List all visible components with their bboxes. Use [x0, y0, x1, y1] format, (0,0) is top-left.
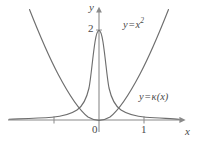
- parabola-label-exponent: 2: [140, 16, 144, 25]
- curve-kappa: [9, 30, 179, 119]
- y-axis-label: y: [89, 2, 94, 13]
- origin-label: 0: [92, 124, 98, 135]
- plot-canvas: [0, 0, 197, 145]
- x-tick-label-1: 1: [141, 124, 147, 135]
- axis-lines: [8, 12, 180, 132]
- curvature-figure: y x 2 0 1 y=x2 y=κ(x): [0, 0, 197, 145]
- kappa-label-function: κ(x): [152, 91, 169, 102]
- parabola-curve-label: y=x2: [123, 17, 144, 30]
- parabola-label-equals: =: [128, 19, 136, 30]
- kappa-label-equals: =: [144, 91, 152, 102]
- y-tick-label-2: 2: [88, 23, 94, 34]
- x-axis-label: x: [185, 126, 190, 137]
- parabola-label-y: y: [123, 19, 128, 30]
- kappa-curve-label: y=κ(x): [139, 92, 168, 103]
- kappa-label-y: y: [139, 91, 144, 102]
